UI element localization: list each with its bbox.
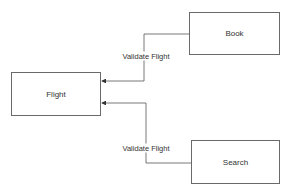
edge-search-to-flight [102,103,191,163]
node-flight[interactable]: Flight [11,72,101,116]
edge-label-search-validate: Validate Flight [122,144,171,153]
node-search[interactable]: Search [191,140,280,184]
node-book[interactable]: Book [189,12,280,55]
node-flight-label: Flight [46,90,66,99]
node-book-label: Book [225,29,243,38]
node-search-label: Search [223,158,248,167]
edge-label-book-validate: Validate Flight [122,52,171,61]
